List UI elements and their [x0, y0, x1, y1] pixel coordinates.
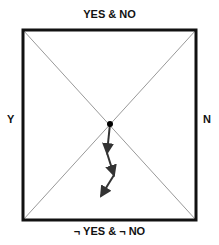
center-point [107, 121, 113, 127]
square-of-opposition-diagram [0, 0, 219, 245]
path-segment-arrow [107, 153, 114, 175]
path-segment-arrow [107, 124, 110, 153]
path-segment-arrow [101, 175, 114, 196]
trajectory-path [101, 124, 114, 196]
